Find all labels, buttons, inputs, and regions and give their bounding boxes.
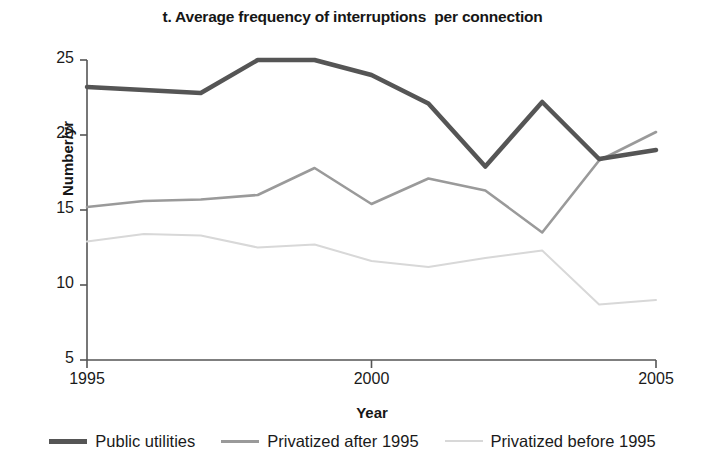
legend-label: Privatized before 1995 bbox=[491, 432, 656, 451]
x-axis-tick-label: 2000 bbox=[337, 370, 407, 388]
chart-legend: Public utilitiesPrivatized after 1995Pri… bbox=[0, 424, 705, 458]
series-line bbox=[87, 60, 656, 167]
x-axis-tick-label: 1995 bbox=[52, 370, 122, 388]
y-axis-tick-label: 10 bbox=[36, 274, 74, 292]
series-line bbox=[87, 132, 656, 233]
series-line bbox=[87, 234, 656, 305]
line-chart-plot bbox=[0, 0, 705, 462]
y-axis-tick-label: 5 bbox=[36, 349, 74, 367]
x-axis-tick-label: 2005 bbox=[621, 370, 691, 388]
legend-line-swatch bbox=[445, 440, 483, 442]
legend-line-swatch bbox=[49, 439, 87, 444]
legend-label: Privatized after 1995 bbox=[267, 432, 418, 451]
legend-line-swatch bbox=[221, 440, 259, 443]
y-axis-tick-label: 25 bbox=[36, 49, 74, 67]
legend-item[interactable]: Privatized after 1995 bbox=[221, 432, 418, 451]
y-axis-label: Number/yr bbox=[59, 94, 76, 224]
legend-label: Public utilities bbox=[95, 432, 195, 451]
legend-item[interactable]: Privatized before 1995 bbox=[445, 432, 656, 451]
legend-item[interactable]: Public utilities bbox=[49, 432, 195, 451]
x-axis-label: Year bbox=[87, 404, 657, 421]
chart-container: t. Average frequency of interruptions pe… bbox=[0, 0, 705, 462]
